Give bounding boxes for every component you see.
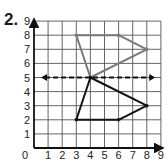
x-tick-label: 8 (144, 149, 150, 161)
vertex-point (145, 48, 149, 52)
x-tick-label: 7 (130, 149, 136, 161)
arrow-right-icon (149, 74, 155, 81)
coordinate-plane: 2. 0123456789123456789 (0, 0, 166, 161)
x-tick-label: 1 (45, 149, 51, 161)
x-tick-label: 3 (73, 149, 79, 161)
x-tick-label: 6 (116, 149, 122, 161)
y-tick-label: 3 (24, 100, 30, 112)
tick-labels: 0123456789123456789 (22, 15, 164, 161)
vertex-point (145, 104, 149, 108)
reflection-coordinate-grid-figure: 2. 0123456789123456789 (0, 0, 166, 161)
x-tick-label: 5 (101, 149, 107, 161)
y-tick-label: 4 (24, 86, 30, 98)
original-figure (76, 35, 147, 77)
y-tick-label: 7 (24, 43, 30, 55)
y-tick-label: 9 (24, 15, 30, 27)
vertex-point (75, 33, 79, 37)
x-tick-label: 4 (87, 149, 93, 161)
vertex-point (75, 118, 79, 122)
vertex-point (117, 33, 121, 37)
x-tick-label: 0 (22, 149, 28, 161)
vertex-point (117, 118, 121, 122)
y-tick-label: 6 (24, 57, 30, 69)
reflected-figure (76, 78, 147, 120)
x-tick-label: 9 (158, 149, 164, 161)
y-tick-label: 2 (24, 114, 30, 126)
y-tick-label: 1 (24, 128, 30, 140)
axes (34, 19, 163, 148)
y-tick-label: 8 (24, 29, 30, 41)
problem-number: 2. (4, 10, 18, 29)
x-tick-label: 2 (59, 149, 65, 161)
y-tick-label: 5 (24, 72, 30, 84)
arrow-left-icon (41, 74, 47, 81)
grid-lines (34, 21, 161, 148)
